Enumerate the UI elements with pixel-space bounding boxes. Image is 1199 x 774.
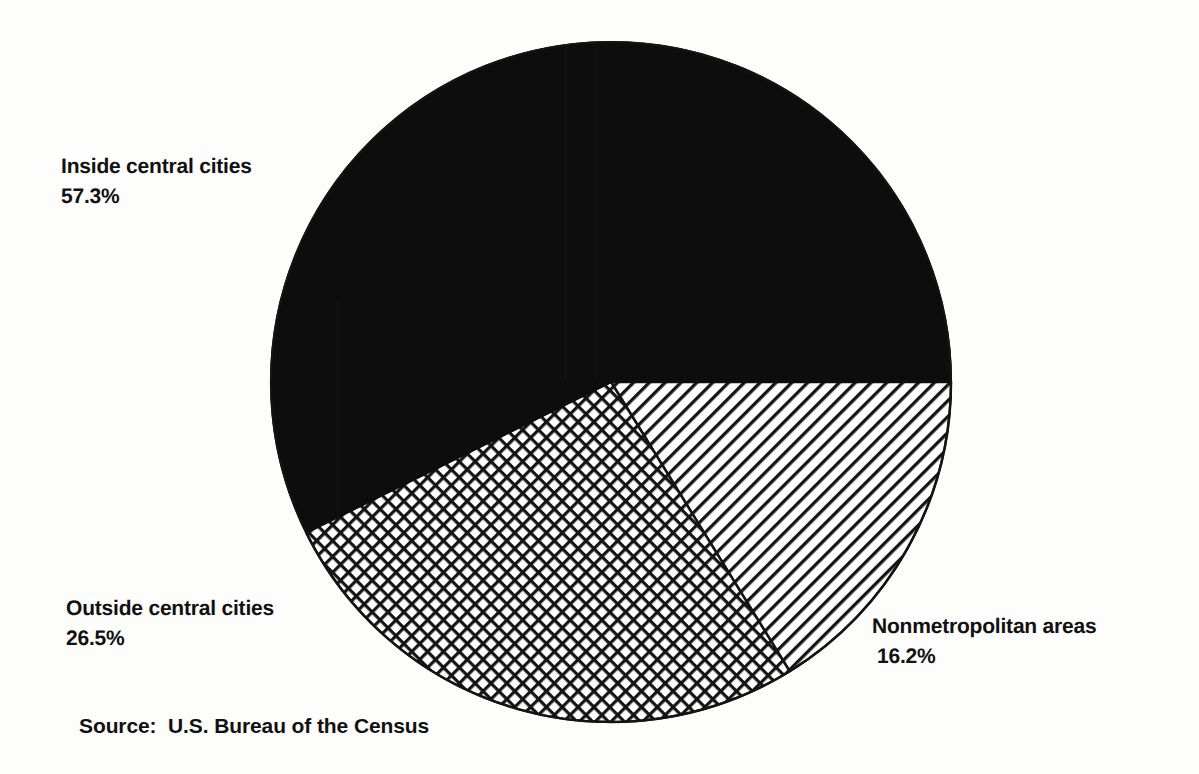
pie-label-inside-central-cities-name: Inside central cities <box>61 155 252 178</box>
pie-label-inside-central-cities: Inside central cities 57.3% <box>61 152 252 212</box>
pie-label-nonmetropolitan-areas-name: Nonmetropolitan areas <box>872 615 1097 638</box>
source-note: Source: U.S. Bureau of the Census <box>79 714 429 738</box>
pie-label-nonmetropolitan-areas-value: 16.2% <box>872 642 1097 672</box>
pie-label-outside-central-cities-name: Outside central cities <box>66 597 274 620</box>
pie-chart-figure: Inside central cities 57.3% Outside cent… <box>0 0 1199 774</box>
pie-label-nonmetropolitan-areas: Nonmetropolitan areas 16.2% <box>872 612 1097 672</box>
pie-label-outside-central-cities: Outside central cities 26.5% <box>66 594 274 654</box>
pie-label-outside-central-cities-value: 26.5% <box>66 624 274 654</box>
pie-label-inside-central-cities-value: 57.3% <box>61 182 252 212</box>
